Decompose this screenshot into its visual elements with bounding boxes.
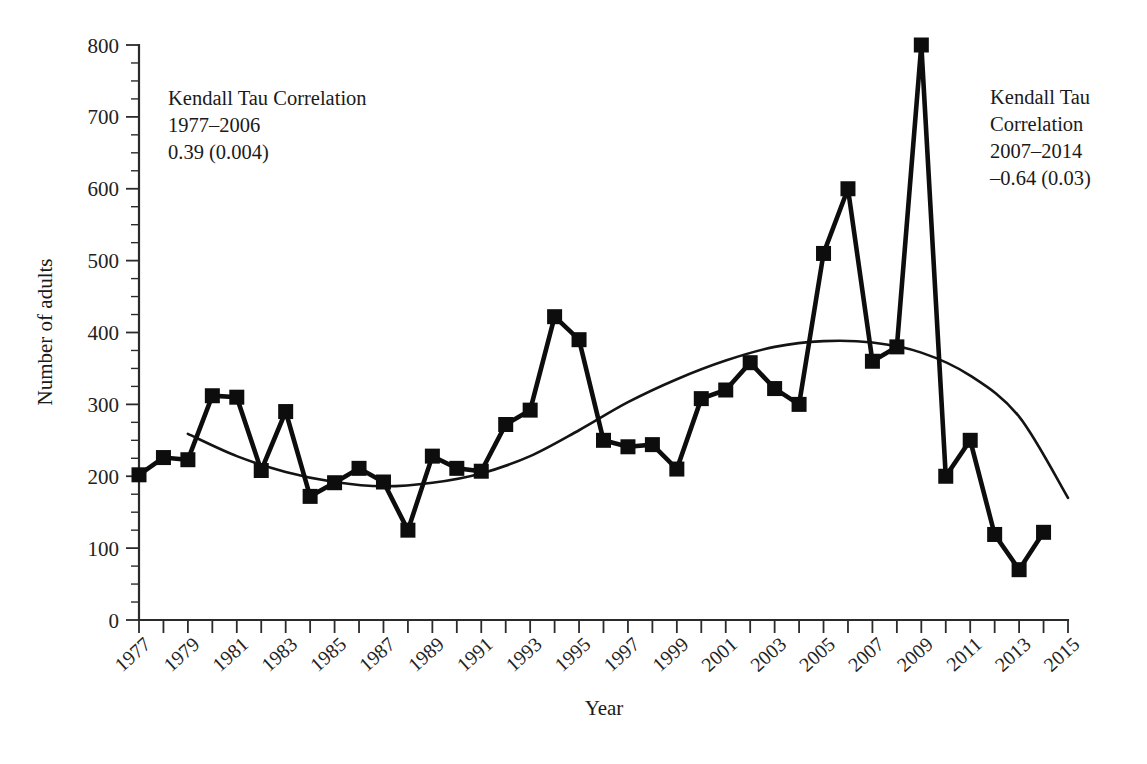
data-point-marker xyxy=(1036,525,1051,540)
data-point-marker xyxy=(523,403,538,418)
data-point-marker xyxy=(352,461,367,476)
data-point-marker xyxy=(767,381,782,396)
data-point-marker xyxy=(547,309,562,324)
data-point-marker xyxy=(327,475,342,490)
data-point-marker xyxy=(156,450,171,465)
x-axis-title: Year xyxy=(585,696,624,720)
y-tick-label: 800 xyxy=(88,34,120,58)
data-point-marker xyxy=(596,433,611,448)
y-tick-label: 600 xyxy=(88,177,120,201)
data-point-marker xyxy=(254,463,269,478)
y-axis-title: Number of adults xyxy=(33,259,57,406)
y-tick-label: 400 xyxy=(88,321,120,345)
data-point-marker xyxy=(816,246,831,261)
data-point-marker xyxy=(376,475,391,490)
data-point-marker xyxy=(620,439,635,454)
data-point-marker xyxy=(938,469,953,484)
data-point-marker xyxy=(987,527,1002,542)
data-point-marker xyxy=(963,433,978,448)
data-point-marker xyxy=(840,181,855,196)
annotation-line: 1977–2006 xyxy=(168,114,260,136)
y-tick-label: 0 xyxy=(109,609,120,633)
y-tick-label: 200 xyxy=(88,465,120,489)
data-point-marker xyxy=(303,489,318,504)
data-point-marker xyxy=(498,417,513,432)
y-tick-label: 100 xyxy=(88,537,120,561)
data-point-marker xyxy=(718,383,733,398)
number-of-adults-line-chart: 0100200300400500600700800 19771979198119… xyxy=(0,0,1147,764)
data-point-marker xyxy=(425,449,440,464)
data-point-marker xyxy=(180,452,195,467)
annotation-line: –0.64 (0.03) xyxy=(989,167,1091,190)
data-point-marker xyxy=(229,390,244,405)
data-point-marker xyxy=(743,355,758,370)
data-point-marker xyxy=(645,437,660,452)
data-point-marker xyxy=(669,462,684,477)
annotation-line: 0.39 (0.004) xyxy=(168,141,269,164)
annotation-line: Kendall Tau Correlation xyxy=(168,87,367,109)
data-point-marker xyxy=(278,404,293,419)
data-point-marker xyxy=(792,397,807,412)
data-point-marker xyxy=(914,38,929,53)
chart-figure: 0100200300400500600700800 19771979198119… xyxy=(0,0,1147,764)
y-tick-label: 300 xyxy=(88,393,120,417)
data-point-marker xyxy=(474,464,489,479)
y-axis-tick-labels: 0100200300400500600700800 xyxy=(88,34,120,633)
data-point-marker xyxy=(400,523,415,538)
data-point-marker xyxy=(865,354,880,369)
data-point-marker xyxy=(449,461,464,476)
data-point-marker xyxy=(205,388,220,403)
annotation-line: 2007–2014 xyxy=(990,140,1082,162)
data-point-marker xyxy=(1012,562,1027,577)
annotation-line: Correlation xyxy=(990,113,1083,135)
y-tick-label: 700 xyxy=(88,105,120,129)
y-tick-label: 500 xyxy=(88,249,120,273)
data-point-marker xyxy=(572,332,587,347)
data-point-marker xyxy=(694,391,709,406)
data-point-marker xyxy=(889,339,904,354)
data-point-marker xyxy=(132,467,147,482)
annotation-line: Kendall Tau xyxy=(990,86,1090,108)
